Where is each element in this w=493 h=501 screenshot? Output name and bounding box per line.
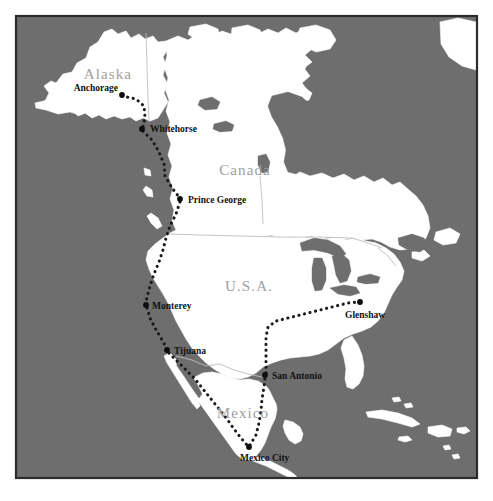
city-label-san-antonio: San Antonio: [272, 371, 322, 381]
city-marker-whitehorse[interactable]: [139, 126, 145, 132]
city-label-prince-george: Prince George: [188, 195, 246, 205]
north-america-map: AnchorageWhitehorsePrince GeorgeMonterey…: [0, 0, 493, 501]
city-marker-monterey[interactable]: [143, 302, 149, 308]
city-marker-san-antonio[interactable]: [262, 372, 268, 378]
city-label-glenshaw: Glenshaw: [345, 310, 385, 320]
city-marker-tijuana[interactable]: [164, 347, 170, 353]
city-marker-glenshaw[interactable]: [357, 299, 363, 305]
city-label-whitehorse: Whitehorse: [150, 124, 197, 134]
city-marker-anchorage[interactable]: [119, 92, 125, 98]
city-label-monterey: Monterey: [152, 301, 192, 311]
country-label-usa: U.S.A.: [225, 278, 273, 294]
city-label-tijuana: Tijuana: [174, 346, 206, 356]
country-label-alaska: Alaska: [84, 66, 132, 82]
city-label-anchorage: Anchorage: [74, 83, 118, 93]
bahamas-island-b: [404, 403, 413, 408]
map-body: AnchorageWhitehorsePrince GeorgeMonterey…: [17, 17, 476, 478]
country-label-mexico: Mexico: [217, 405, 269, 421]
city-marker-prince-george[interactable]: [177, 196, 183, 202]
country-label-canada: Canada: [219, 162, 271, 178]
city-marker-mexico-city[interactable]: [246, 444, 252, 450]
city-label-mexico-city: Mexico City: [240, 453, 290, 463]
bahamas-island-a: [392, 397, 401, 402]
map-container: AnchorageWhitehorsePrince GeorgeMonterey…: [0, 0, 493, 501]
